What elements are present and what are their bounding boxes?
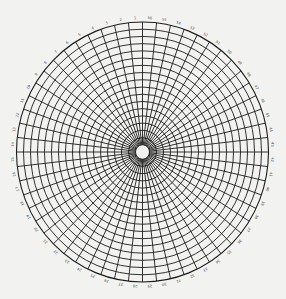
- radial-spokes: [17, 22, 269, 282]
- perimeter-label: 13: [12, 127, 17, 132]
- perimeter-label: 36: [236, 238, 243, 245]
- perimeter-label: 50: [226, 49, 233, 56]
- perimeter-label: 26: [103, 278, 109, 283]
- perimeter-label: 56: [147, 16, 153, 20]
- perimeter-label: 10: [26, 84, 32, 91]
- perimeter-label: 19: [26, 213, 32, 220]
- perimeter-label: 3: [105, 21, 108, 25]
- polar-grid-diagram: 1234567891011121314151617181920212223242…: [0, 0, 286, 299]
- perimeter-label: 55: [162, 18, 167, 23]
- perimeter-label: 34: [214, 258, 221, 264]
- perimeter-label: 12: [15, 112, 20, 118]
- perimeter-label: 44: [268, 127, 273, 133]
- perimeter-label: 21: [43, 238, 49, 244]
- perimeter-label: 32: [189, 273, 195, 278]
- perimeter-label: 1: [134, 16, 137, 20]
- perimeter-label: 27: [118, 282, 123, 287]
- perimeter-label: 54: [176, 21, 182, 26]
- perimeter-label: 41: [268, 172, 273, 177]
- perimeter-label: 11: [20, 98, 25, 104]
- perimeter-label: 6: [65, 40, 70, 45]
- perimeter-label: 18: [19, 200, 25, 206]
- perimeter-label: 43: [270, 142, 274, 147]
- perimeter-label: 16: [12, 171, 17, 177]
- perimeter-label: 52: [202, 32, 208, 38]
- perimeter-label: 42: [270, 157, 274, 162]
- perimeter-label: 35: [226, 249, 232, 255]
- perimeter-label: 46: [260, 98, 266, 104]
- perimeter-label: 30: [161, 282, 167, 287]
- perimeter-label: 23: [64, 258, 70, 264]
- perimeter-label: 15: [11, 157, 15, 162]
- perimeter-label: 24: [76, 266, 83, 272]
- perimeter-label: 9: [34, 72, 39, 77]
- perimeter-label: 28: [132, 284, 138, 288]
- perimeter-label: 2: [119, 18, 122, 22]
- perimeter-label: 48: [246, 71, 252, 78]
- perimeter-label: 45: [265, 112, 270, 118]
- perimeter-label: 31: [176, 278, 182, 283]
- perimeter-label: 53: [189, 25, 195, 30]
- perimeter-label: 14: [11, 141, 15, 147]
- perimeter-label: 4: [91, 26, 95, 31]
- perimeter-label: 33: [202, 266, 208, 272]
- perimeter-label: 20: [33, 226, 39, 233]
- perimeter-label: 40: [265, 186, 270, 192]
- polar-grid-svg: 1234567891011121314151617181920212223242…: [0, 0, 286, 299]
- perimeter-label: 49: [236, 60, 243, 67]
- perimeter-label: 29: [147, 284, 153, 288]
- perimeter-label: 37: [246, 227, 252, 233]
- perimeter-label: 22: [53, 249, 59, 255]
- perimeter-label: 25: [90, 273, 96, 278]
- perimeter-label: 38: [253, 214, 259, 221]
- perimeter-label: 39: [260, 200, 266, 206]
- perimeter-label: 7: [54, 50, 58, 55]
- perimeter-label: 5: [78, 32, 82, 37]
- perimeter-label: 47: [253, 84, 259, 90]
- perimeter-label: 17: [15, 186, 20, 192]
- perimeter-label: 51: [215, 40, 221, 46]
- perimeter-label: 8: [43, 60, 48, 65]
- grid-ring: [136, 145, 150, 159]
